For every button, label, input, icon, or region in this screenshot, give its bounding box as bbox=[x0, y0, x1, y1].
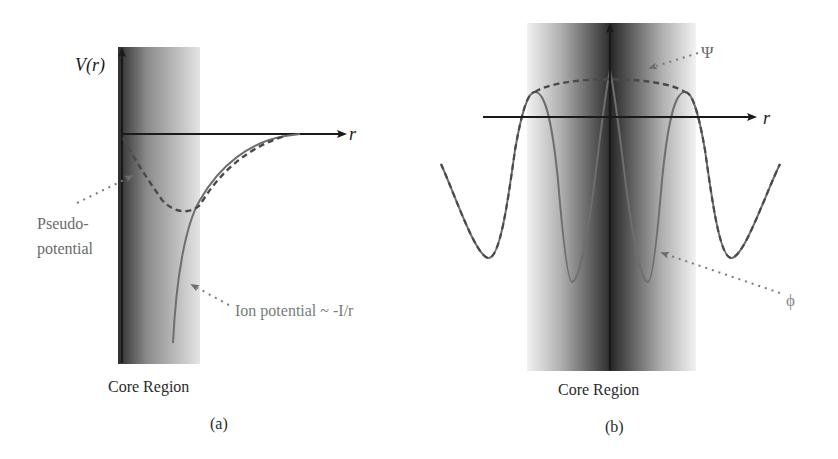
psi-label: Ψ bbox=[701, 43, 714, 62]
phi-label: ϕ bbox=[786, 291, 795, 310]
core-region-label-a: Core Region bbox=[108, 378, 189, 396]
caption-a: (a) bbox=[210, 415, 228, 433]
x-axis-label-b: r bbox=[763, 108, 771, 128]
caption-b: (b) bbox=[605, 418, 624, 436]
panel-b bbox=[441, 23, 780, 371]
ion-potential-label: Ion potential ~ -I/r bbox=[235, 302, 354, 320]
pseudo-label-line1: Pseudo- bbox=[37, 215, 89, 232]
core-region-label-b: Core Region bbox=[558, 381, 639, 399]
x-axis-label-a: r bbox=[349, 124, 357, 144]
y-axis-label-a: V(r) bbox=[75, 55, 105, 76]
core-region-band bbox=[118, 47, 200, 364]
pseudopotential-diagram: V(r) r Pseudo- potential Ion potential ~… bbox=[0, 0, 838, 459]
pseudo-label-line2: potential bbox=[37, 240, 94, 258]
